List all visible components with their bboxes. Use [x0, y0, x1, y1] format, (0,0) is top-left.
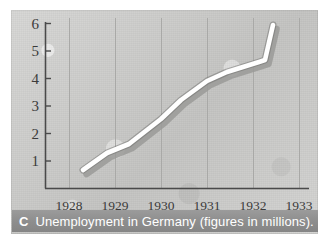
figure-container: 6 5 4 3 2 1 1928 1929 1930 1931 1932 193…	[0, 0, 329, 243]
chart-panel: 6 5 4 3 2 1 1928 1929 1930 1931 1932 193…	[11, 10, 318, 234]
y-tick-label-2: 2	[23, 127, 39, 142]
caption-bar: C Unemployment in Germany (figures in mi…	[12, 210, 318, 232]
caption-letter: C	[19, 214, 28, 229]
y-tick-label-6: 6	[23, 17, 39, 32]
y-tick-label-3: 3	[23, 99, 39, 114]
y-tick-label-5: 5	[23, 44, 39, 59]
data-line-outline	[83, 25, 273, 170]
caption-text: Unemployment in Germany (figures in mill…	[35, 214, 313, 229]
y-tick-label-1: 1	[23, 154, 39, 169]
y-tick-marks	[46, 24, 52, 162]
y-tick-label-4: 4	[23, 72, 39, 87]
